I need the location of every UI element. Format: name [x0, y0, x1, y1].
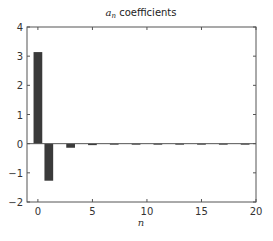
y-tick-label: 4	[17, 22, 23, 33]
y-tick-label: −1	[8, 168, 23, 179]
x-tick-label: 0	[35, 206, 41, 217]
x-tick-label: 15	[195, 206, 208, 217]
bar	[34, 52, 43, 144]
y-tick-label: 2	[17, 80, 23, 91]
y-tick-label: 0	[17, 139, 23, 150]
bar	[66, 144, 75, 148]
x-tick-label: 5	[89, 206, 95, 217]
bar-chart: an coefficients 05101520 −2−101234 n	[0, 0, 273, 241]
bar	[44, 144, 53, 181]
x-tick-label: 10	[141, 206, 154, 217]
x-tick-label: 20	[250, 206, 263, 217]
x-axis-ticks: 05101520	[35, 27, 263, 217]
x-axis-label: n	[138, 217, 144, 228]
y-tick-label: 3	[17, 51, 23, 62]
y-tick-label: 1	[17, 110, 23, 121]
bars	[34, 52, 250, 181]
axes-frame	[27, 27, 256, 202]
chart-title: an coefficients	[106, 7, 177, 20]
y-tick-label: −2	[8, 197, 23, 208]
